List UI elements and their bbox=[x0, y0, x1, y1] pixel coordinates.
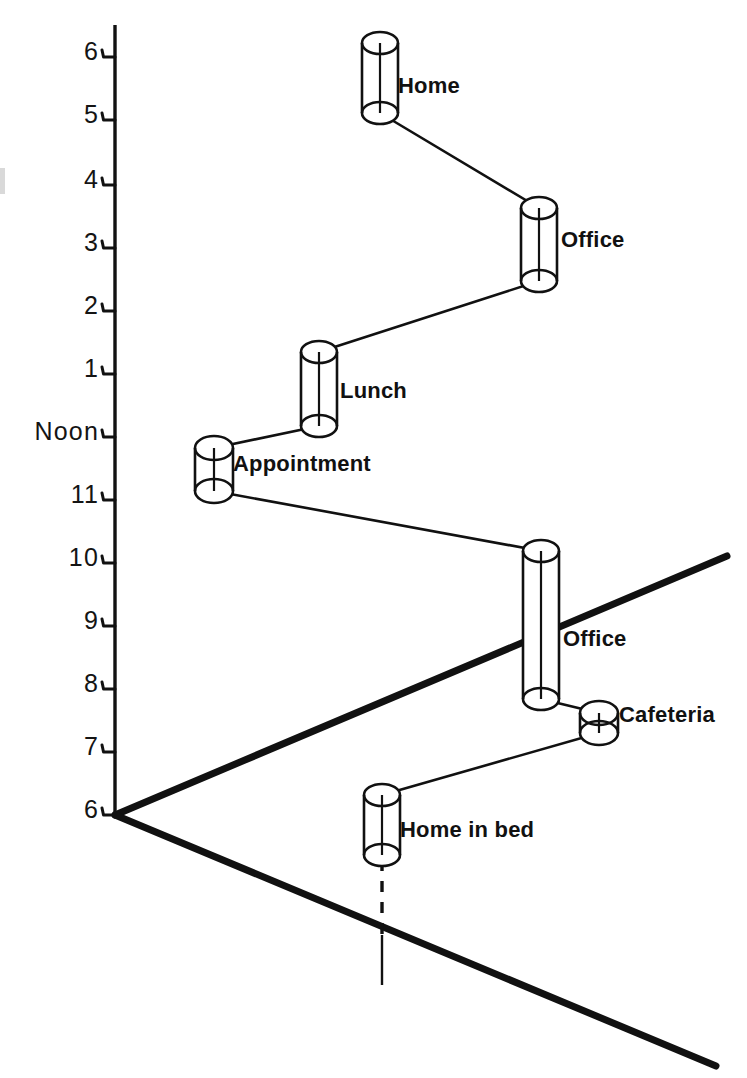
axis-tick-label: 10 bbox=[69, 543, 99, 572]
station-cylinder bbox=[523, 540, 559, 710]
axis-tick-label: 6 bbox=[84, 37, 99, 66]
station-cylinder bbox=[521, 197, 557, 292]
ground-edge-right-down bbox=[115, 815, 716, 1066]
station-label: Office bbox=[561, 227, 625, 253]
home-to-office-pm bbox=[380, 113, 539, 208]
lunch-to-office-pm bbox=[319, 281, 539, 352]
station-label: Home bbox=[398, 73, 460, 99]
axis-tick-mark bbox=[102, 682, 115, 689]
axis-tick-label: 7 bbox=[84, 732, 99, 761]
ground-plane bbox=[115, 556, 727, 1066]
station-label: Cafeteria bbox=[619, 702, 715, 728]
station-label: Appointment bbox=[233, 451, 371, 477]
axis-tick-mark bbox=[102, 178, 115, 185]
axis-tick-mark bbox=[102, 745, 115, 752]
station-cylinder bbox=[301, 341, 337, 437]
axis-tick-label: Noon bbox=[34, 417, 99, 446]
axis-tick-label: 9 bbox=[84, 606, 99, 635]
space-time-diagram: 654321Noon11109876 HomeOfficeLunchAppoin… bbox=[0, 0, 747, 1078]
office-am-to-appointment bbox=[214, 491, 541, 551]
axis-tick-mark bbox=[102, 241, 115, 248]
station-label: Office bbox=[563, 626, 627, 652]
axis-tick-label: 1 bbox=[84, 354, 99, 383]
axis-tick-mark bbox=[102, 556, 115, 563]
axis-tick-label: 3 bbox=[84, 228, 99, 257]
station-cylinder bbox=[195, 436, 233, 503]
bed-to-cafeteria bbox=[382, 733, 599, 795]
axis-tick-label: 4 bbox=[84, 165, 99, 194]
axis-tick-mark bbox=[102, 367, 115, 374]
axis-tick-label: 6 bbox=[84, 795, 99, 824]
station-cylinders bbox=[195, 32, 618, 866]
diagram-canvas bbox=[0, 0, 747, 1078]
station-cylinder bbox=[364, 784, 400, 866]
station-label: Lunch bbox=[340, 378, 407, 404]
axis-tick-mark bbox=[102, 113, 115, 120]
station-cylinder bbox=[362, 32, 398, 124]
axis-tick-label: 5 bbox=[84, 100, 99, 129]
ground-edge-right-up bbox=[115, 556, 727, 815]
axis-tick-mark bbox=[102, 430, 115, 437]
axis-tick-mark bbox=[102, 50, 115, 57]
axis-tick-label: 8 bbox=[84, 669, 99, 698]
time-axis bbox=[102, 25, 115, 815]
axis-tick-mark bbox=[102, 493, 115, 500]
axis-tick-mark bbox=[102, 304, 115, 311]
axis-tick-mark bbox=[102, 808, 115, 815]
axis-tick-label: 2 bbox=[84, 291, 99, 320]
axis-tick-label: 11 bbox=[71, 480, 99, 509]
station-label: Home in bed bbox=[400, 817, 534, 843]
axis-tick-mark bbox=[102, 619, 115, 626]
station-cylinder bbox=[580, 701, 618, 745]
